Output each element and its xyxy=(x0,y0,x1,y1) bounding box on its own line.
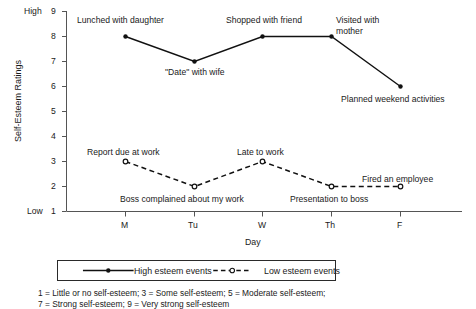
legend-high-marker xyxy=(106,268,110,272)
annotation-high-wednesday: Shopped with friend xyxy=(226,15,302,25)
annotation-high-tuesday: "Date" with wife xyxy=(165,67,225,77)
y-tick-label-2: 2 xyxy=(51,181,56,191)
x-tick-label-tu: Tu xyxy=(188,220,198,230)
chart-legend: High esteem events Low esteem events xyxy=(57,260,336,281)
series-high-esteem-markers xyxy=(123,34,402,88)
y-tick-label-5: 5 xyxy=(51,106,56,116)
series-low-esteem-markers xyxy=(123,159,403,189)
x-tick-label-f: F xyxy=(397,220,402,230)
footnote-line-1: 1 = Little or no self-esteem; 3 = Some s… xyxy=(38,288,325,298)
y-tick-label-7: 7 xyxy=(51,56,56,66)
x-axis-ticks xyxy=(126,212,401,217)
y-tick-label-6: 6 xyxy=(51,81,56,91)
y-axis-high-label: High xyxy=(24,6,42,16)
series-high-esteem-line xyxy=(126,37,401,87)
annotation-low-tuesday: Boss complained about my work xyxy=(120,194,244,204)
y-axis-ticks xyxy=(62,12,67,212)
annotation-low-thursday: Presentation to boss xyxy=(290,194,368,204)
legend-label-low: Low esteem events xyxy=(264,266,340,276)
y-tick-label-3: 3 xyxy=(51,156,56,166)
x-tick-label-w: W xyxy=(258,220,266,230)
legend-label-high: High esteem events xyxy=(134,266,212,276)
annotation-low-wednesday: Late to work xyxy=(237,147,284,157)
annotation-high-monday: Lunched with daughter xyxy=(77,15,164,25)
y-tick-label-8: 8 xyxy=(51,31,56,41)
x-axis-title: Day xyxy=(245,237,261,247)
y-tick-label-4: 4 xyxy=(51,131,56,141)
annotation-low-monday: Report due at work xyxy=(87,147,160,157)
y-axis-title: Self-Esteem Ratings xyxy=(13,46,23,156)
annotation-high-thursday-line1: Visited with xyxy=(336,15,379,25)
annotation-low-friday: Fired an employee xyxy=(362,174,433,184)
legend-low-marker xyxy=(230,268,235,273)
annotation-high-friday: Planned weekend activities xyxy=(341,94,445,104)
y-axis-low-label: Low xyxy=(27,206,43,216)
x-tick-label-m: M xyxy=(121,220,128,230)
y-tick-label-9: 9 xyxy=(51,6,56,16)
y-tick-label-1: 1 xyxy=(51,206,56,216)
footnote-line-2: 7 = Strong self-esteem; 9 = Very strong … xyxy=(38,299,229,309)
series-low-esteem-line xyxy=(126,162,401,187)
x-tick-label-th: Th xyxy=(325,220,335,230)
annotation-high-thursday-line2: mother xyxy=(336,26,363,36)
